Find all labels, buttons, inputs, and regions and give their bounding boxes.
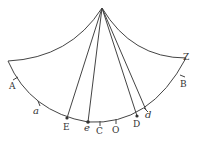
- point-D: [135, 114, 138, 117]
- label-a: a: [33, 105, 39, 116]
- label-O: O: [112, 125, 119, 135]
- ray-to-D: [102, 8, 137, 116]
- right-upper-curve: [102, 8, 186, 58]
- point-E: [65, 116, 68, 119]
- ray-to-E: [67, 8, 102, 118]
- label-d: d: [145, 109, 151, 120]
- label-E: E: [63, 122, 70, 132]
- label-B: B: [180, 79, 187, 89]
- ray-to-d: [102, 8, 146, 110]
- label-e: e: [84, 122, 90, 133]
- tick-B: [180, 75, 185, 77]
- ray-to-e: [88, 8, 102, 122]
- label-Z: Z: [183, 52, 189, 62]
- label-D: D: [133, 119, 140, 129]
- label-C: C: [96, 126, 103, 136]
- label-A: A: [8, 81, 16, 91]
- diagram-canvas: A a E e C O D d B Z: [0, 0, 201, 141]
